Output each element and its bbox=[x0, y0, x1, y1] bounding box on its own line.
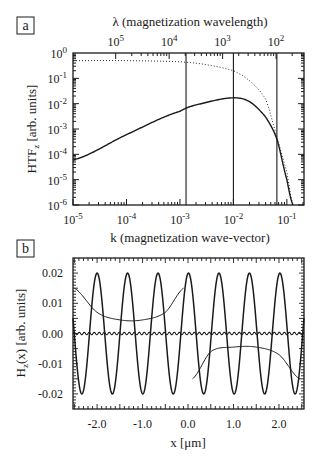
panel-b-axes bbox=[73, 258, 304, 409]
tick-label: 10-5 bbox=[63, 211, 83, 227]
tick-label: 104 bbox=[161, 33, 178, 49]
tick-label: 10-6 bbox=[48, 197, 68, 213]
x-axis-label: k (magnetization wave-vector) bbox=[110, 230, 270, 245]
panel-a-label: a bbox=[22, 18, 29, 33]
tick-label: 102 bbox=[268, 33, 285, 49]
tick-label: -0.02 bbox=[38, 387, 63, 401]
panel-a: a λ (magnetization wavelength) 105104103… bbox=[17, 14, 304, 245]
panel-b: b -2.0-1.00.01.02.0 0.020.010.00-0.01-0.… bbox=[13, 240, 304, 450]
panel-b-label: b bbox=[22, 241, 29, 256]
y-axis-tick-labels: 10010-110-210-310-410-510-6 bbox=[48, 45, 68, 213]
tick-label: 0.02 bbox=[42, 266, 63, 280]
y-axis-label: HTFz [arb. units] bbox=[24, 85, 41, 174]
tick-label: 10-4 bbox=[117, 211, 137, 227]
x-axis-tick-labels: 10-510-410-310-210-1 bbox=[63, 211, 296, 227]
ripple-curve bbox=[73, 332, 304, 334]
solid-curve bbox=[73, 98, 293, 205]
tick-label: 103 bbox=[214, 33, 231, 49]
tick-label: 10-3 bbox=[170, 211, 190, 227]
top-axis-title: λ (magnetization wavelength) bbox=[112, 14, 267, 29]
x-axis-tick-labels: -2.0-1.00.01.02.0 bbox=[88, 417, 287, 431]
tick-label: 10-5 bbox=[48, 172, 68, 188]
tick-label: 10-4 bbox=[48, 146, 68, 162]
dotted-curve bbox=[73, 61, 293, 205]
tick-label: 10-2 bbox=[224, 211, 244, 227]
tick-label: 0.01 bbox=[42, 296, 63, 310]
tick-label: 2.0 bbox=[271, 417, 286, 431]
tick-label: 1.0 bbox=[226, 417, 241, 431]
tick-label: -2.0 bbox=[88, 417, 107, 431]
tick-label: 10-1 bbox=[277, 211, 297, 227]
y-axis-label: Hz(x) [arb. units] bbox=[13, 289, 30, 378]
x-axis-label: x [μm] bbox=[170, 435, 206, 450]
tick-label: 10-3 bbox=[48, 121, 68, 137]
tick-label: 10-2 bbox=[48, 96, 68, 112]
top-axis-tick-labels: 105104103102 bbox=[107, 33, 284, 49]
tick-label: 0.0 bbox=[181, 417, 196, 431]
tick-label: 0.00 bbox=[42, 327, 63, 341]
tick-label: -0.01 bbox=[38, 357, 63, 371]
tick-label: 10-1 bbox=[48, 70, 68, 86]
tick-label: -1.0 bbox=[133, 417, 152, 431]
y-axis-tick-labels: 0.020.010.00-0.01-0.02 bbox=[38, 266, 63, 401]
tick-label: 105 bbox=[107, 33, 124, 49]
figure: a λ (magnetization wavelength) 105104103… bbox=[0, 0, 323, 470]
panel-a-axes bbox=[73, 53, 304, 205]
plot-frame bbox=[73, 53, 304, 205]
tick-label: 100 bbox=[51, 45, 68, 61]
